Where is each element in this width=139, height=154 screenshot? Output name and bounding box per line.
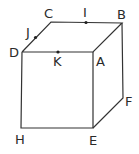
- cube-diagram: C I B J D K A F H E: [0, 0, 139, 154]
- label-f: F: [125, 94, 132, 109]
- label-h: H: [15, 132, 25, 147]
- point-i: [84, 21, 87, 24]
- label-k: K: [53, 54, 62, 69]
- label-b: B: [117, 7, 126, 22]
- label-a: A: [96, 54, 105, 69]
- label-c: C: [44, 6, 53, 21]
- label-d: D: [9, 45, 19, 60]
- label-e: E: [89, 133, 97, 148]
- edge-right-face: [93, 23, 123, 128]
- label-j: J: [25, 25, 30, 40]
- label-i: I: [83, 5, 87, 20]
- point-j: [34, 36, 37, 39]
